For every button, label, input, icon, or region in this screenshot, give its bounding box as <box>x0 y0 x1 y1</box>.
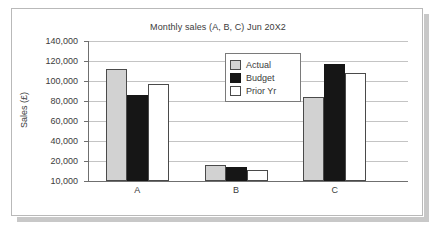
panel-shadow-bottom <box>17 217 429 222</box>
bar-b-prior-yr <box>247 170 268 181</box>
bar-a-prior-yr <box>148 84 169 181</box>
y-axis-tick-label: 20,000 <box>50 156 78 166</box>
y-axis-tick-label: 140,000 <box>45 36 78 46</box>
chart-panel: Monthly sales (A, B, C) Jun 20X2 Sales (… <box>11 8 423 216</box>
y-axis-tick-label: 40,000 <box>50 136 78 146</box>
legend-label: Actual <box>246 60 271 70</box>
legend-label: Prior Yr <box>246 86 276 96</box>
y-axis-tick-labels: 140,000120,000100,00080,00060,00040,0002… <box>12 9 78 217</box>
legend-item: Actual <box>230 58 295 71</box>
bar-c-budget <box>324 64 345 181</box>
gridline <box>88 181 408 182</box>
bar-a-budget <box>127 95 148 181</box>
bar-c-prior-yr <box>345 73 366 181</box>
x-axis-tick-label: B <box>216 185 256 195</box>
bar-a-actual <box>106 69 127 181</box>
y-axis-tick-label: 80,000 <box>50 96 78 106</box>
bar-b-actual <box>205 165 226 181</box>
y-axis-tick-label: 60,000 <box>50 116 78 126</box>
legend-item: Prior Yr <box>230 84 295 97</box>
panel-shadow-right <box>424 14 429 222</box>
legend-swatch-icon <box>230 86 241 96</box>
y-axis-tick-label: 120,000 <box>45 56 78 66</box>
legend-item: Budget <box>230 71 295 84</box>
x-axis-tick-label: C <box>315 185 355 195</box>
y-axis-tick-label: 10,000 <box>50 176 78 186</box>
legend-swatch-icon <box>230 73 241 83</box>
x-axis-tick-label: A <box>117 185 157 195</box>
y-axis-tick-label: 100,000 <box>45 76 78 86</box>
bar-b-budget <box>226 167 247 181</box>
chart-legend: ActualBudgetPrior Yr <box>225 53 301 102</box>
legend-swatch-icon <box>230 60 241 70</box>
bar-c-actual <box>303 97 324 181</box>
legend-label: Budget <box>246 73 275 83</box>
